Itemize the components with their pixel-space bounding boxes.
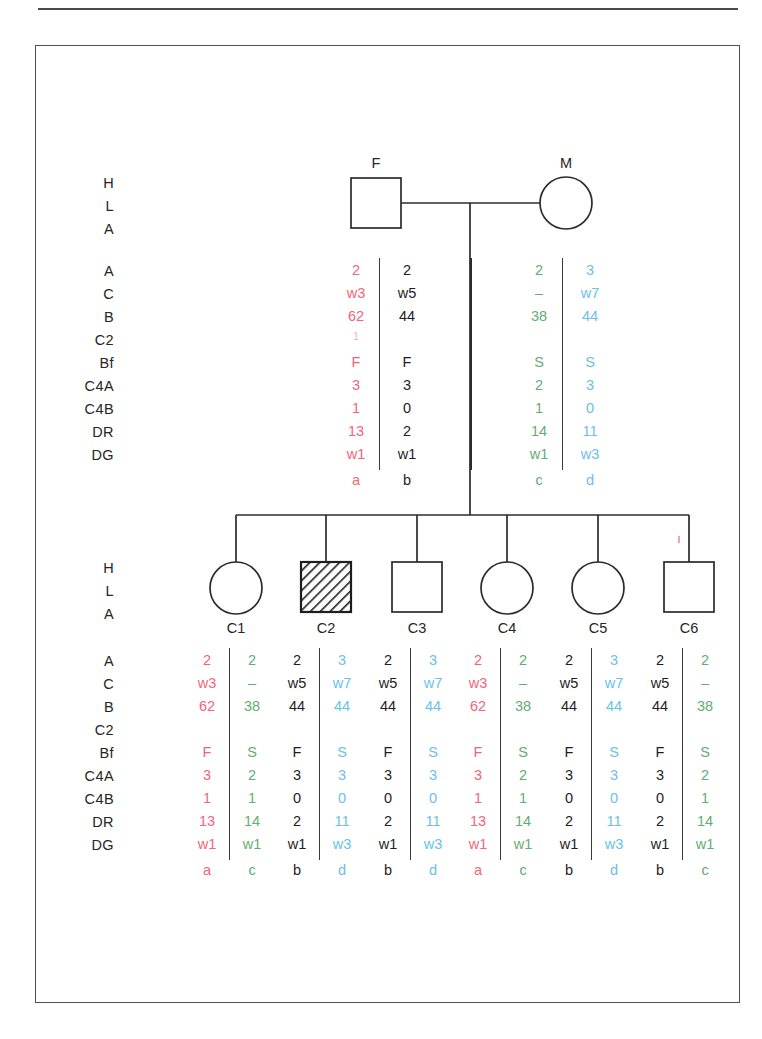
c1-hap-c-C: – [229,676,275,691]
haplotype-separator-father [379,258,380,470]
father-hap-b-DR: 2 [384,424,430,439]
c2-hap-d-DG: w3 [319,837,365,852]
c1-hap-a-C: w3 [184,676,230,691]
c6-hap-c-A: 2 [682,653,728,668]
gen2-locus-label-b: B [40,699,114,715]
c6-hap-c-Bf: S [682,745,728,760]
gen1-row-label-l: L [40,198,114,214]
father-hap-a-B: 62 [333,309,379,324]
gen1-row-label-h: H [40,175,114,191]
father-hap-b-B: 44 [384,309,430,324]
mother-hap-d-C4A: 3 [567,378,613,393]
gen1-locus-label-c: C [40,286,114,302]
father-hap-b-Bf: F [384,355,430,370]
c6-hap-c-C4A: 2 [682,768,728,783]
c3-hap-b-name: b [365,863,411,878]
c2-hap-b-DG: w1 [274,837,320,852]
c4-hap-c-DG: w1 [500,837,546,852]
c5-hap-b-C: w5 [546,676,592,691]
c3-hap-d-A: 3 [410,653,456,668]
gen1-locus-label-c4a: C4A [40,378,114,394]
c6-hap-c-B: 38 [682,699,728,714]
mother-hap-c-C4B: 1 [516,401,562,416]
c2-hap-d-C4B: 0 [319,791,365,806]
c4-hap-a-Bf: F [455,745,501,760]
father-hap-a-DR: 13 [333,424,379,439]
gen1-locus-label-bf: Bf [40,355,114,371]
mother-hap-d-A: 3 [567,263,613,278]
father-hap-b-name: b [384,473,430,488]
c3-hap-d-C4B: 0 [410,791,456,806]
caption-c1: C1 [206,620,266,636]
father-hap-b-C4B: 0 [384,401,430,416]
caption-c6: C6 [659,620,719,636]
c5-hap-b-DR: 2 [546,814,592,829]
gen1-locus-label-dg: DG [40,447,114,463]
c5-hap-d-Bf: S [591,745,637,760]
gen2-row-label-h: H [40,560,114,576]
c6-hap-c-DR: 14 [682,814,728,829]
c1-hap-a-name: a [184,863,230,878]
c1-hap-c-DG: w1 [229,837,275,852]
c3-hap-b-DR: 2 [365,814,411,829]
c3-hap-b-C4B: 0 [365,791,411,806]
page-top-rule [38,8,738,10]
c1-hap-a-Bf: F [184,745,230,760]
mother-hap-c-DR: 14 [516,424,562,439]
caption-c4: C4 [477,620,537,636]
c1-hap-a-C4B: 1 [184,791,230,806]
c1-hap-a-DG: w1 [184,837,230,852]
c5-hap-d-A: 3 [591,653,637,668]
mother-hap-d-name: d [567,473,613,488]
c1-hap-c-Bf: S [229,745,275,760]
caption-father: F [346,155,406,171]
c2-hap-d-DR: 11 [319,814,365,829]
c6-hap-b-A: 2 [637,653,683,668]
gen1-locus-label-b: B [40,309,114,325]
c2-hap-b-B: 44 [274,699,320,714]
c2-hap-b-A: 2 [274,653,320,668]
c5-hap-d-C: w7 [591,676,637,691]
c4-hap-a-name: a [455,863,501,878]
gen2-locus-label-a: A [40,653,114,669]
c6-hap-b-C4A: 3 [637,768,683,783]
mother-hap-c-A: 2 [516,263,562,278]
c5-hap-d-B: 44 [591,699,637,714]
gen2-locus-label-bf: Bf [40,745,114,761]
c6-hap-b-DG: w1 [637,837,683,852]
c1-hap-c-DR: 14 [229,814,275,829]
c6-hap-c-C: – [682,676,728,691]
c1-hap-a-A: 2 [184,653,230,668]
c4-hap-c-A: 2 [500,653,546,668]
c4-hap-c-C4B: 1 [500,791,546,806]
father-hap-a-Bf: F [333,355,379,370]
father-hap-a-C2: 1 [333,332,379,342]
gen2-row-label-l: L [40,583,114,599]
c4-hap-a-C: w3 [455,676,501,691]
mother-hap-d-DR: 11 [567,424,613,439]
gen2-locus-label-dg: DG [40,837,114,853]
gen2-locus-label-c4a: C4A [40,768,114,784]
c1-hap-a-DR: 13 [184,814,230,829]
gen1-locus-label-a: A [40,263,114,279]
c5-hap-d-name: d [591,863,637,878]
c3-hap-d-Bf: S [410,745,456,760]
caption-c3: C3 [387,620,447,636]
caption-c2: C2 [296,620,356,636]
mother-hap-d-Bf: S [567,355,613,370]
gen1-locus-label-c4b: C4B [40,401,114,417]
c5-hap-b-name: b [546,863,592,878]
c2-hap-d-Bf: S [319,745,365,760]
c1-hap-c-C4A: 2 [229,768,275,783]
c3-hap-d-C: w7 [410,676,456,691]
c4-hap-c-C: – [500,676,546,691]
mother-hap-c-name: c [516,473,562,488]
c4-hap-c-Bf: S [500,745,546,760]
gen2-locus-label-dr: DR [40,814,114,830]
caption-mother: M [536,155,596,171]
c5-hap-b-B: 44 [546,699,592,714]
c3-hap-b-DG: w1 [365,837,411,852]
c6-hap-b-C4B: 0 [637,791,683,806]
gen2-row-label-a: A [40,606,114,622]
father-hap-b-C: w5 [384,286,430,301]
